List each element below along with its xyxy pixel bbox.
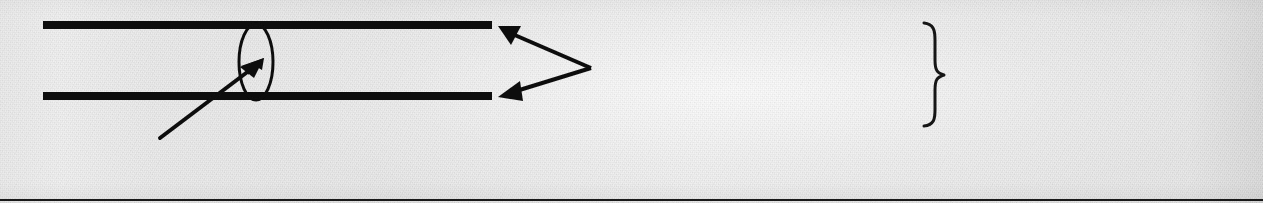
scanned-figure-sheet [0,0,1263,203]
forked-leader-arrow [498,26,591,101]
curly-brace-icon [924,23,944,126]
forked-leader-lower-shaft [513,68,591,92]
upper-wall-bar [43,21,492,29]
detail-lead-arrow-shaft [160,67,254,138]
figure-artwork [0,0,1263,203]
forked-leader-lower-head [498,81,523,101]
lower-wall-bar [43,92,492,100]
forked-leader-upper-shaft [510,33,591,68]
